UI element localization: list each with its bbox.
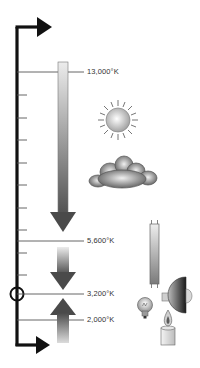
light-bulb-icon xyxy=(138,298,153,319)
arrow-5600-to-3200 xyxy=(50,247,76,290)
temperature-axis xyxy=(11,17,53,354)
level-label-3200: 3,200°K xyxy=(87,290,114,298)
candle-icon xyxy=(161,310,175,345)
cloud-icon xyxy=(89,156,157,188)
guide-lines xyxy=(17,72,84,320)
sun-icon xyxy=(98,100,138,140)
level-label-5600: 5,600°K xyxy=(87,237,114,245)
arrow-13000-to-5600 xyxy=(50,62,76,232)
color-temperature-diagram: 13,000°K 5,600°K 3,200°K 2,000°K xyxy=(0,0,200,368)
fluorescent-tube-icon xyxy=(150,220,159,288)
spotlight-icon xyxy=(162,277,192,313)
arrow-2000-to-3200 xyxy=(50,298,76,343)
level-label-13000: 13,000°K xyxy=(87,68,119,76)
level-label-2000: 2,000°K xyxy=(87,316,114,324)
bottom-arrow-icon xyxy=(36,336,50,354)
top-arrow-icon xyxy=(37,17,52,37)
